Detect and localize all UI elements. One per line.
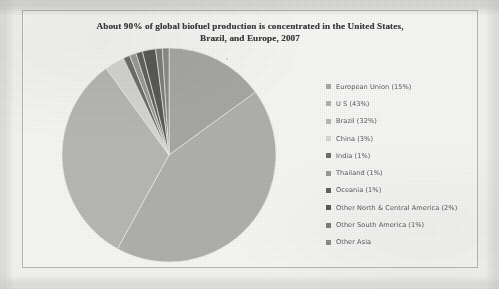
legend-item[interactable]: Thailand (1%): [326, 164, 496, 181]
legend-item[interactable]: Other South America (1%): [326, 216, 496, 233]
legend-swatch-icon: [326, 119, 331, 124]
scanned-page: About 90% of global biofuel production i…: [0, 0, 499, 289]
chart-title: About 90% of global biofuel production i…: [50, 20, 450, 44]
scan-speck: [226, 58, 228, 60]
legend-item[interactable]: Other North & Central America (2%): [326, 199, 496, 216]
legend-swatch-icon: [326, 171, 331, 176]
legend-swatch-icon: [326, 188, 331, 193]
legend-swatch-icon: [326, 223, 331, 228]
legend-swatch-icon: [326, 101, 331, 106]
pie-slices: [62, 48, 276, 262]
legend-item[interactable]: India (1%): [326, 147, 496, 164]
chart-title-line-2: Brazil, and Europe, 2007: [50, 32, 450, 44]
legend-item-label: China (3%): [336, 135, 373, 143]
legend-item[interactable]: China (3%): [326, 130, 496, 147]
legend-swatch-icon: [326, 205, 331, 210]
legend-item-label: Other Asia: [336, 238, 371, 246]
legend-item-label: Oceania (1%): [336, 186, 381, 194]
legend-swatch-icon: [326, 153, 331, 158]
legend-item-label: Thailand (1%): [336, 169, 383, 177]
legend-item[interactable]: Other Asia: [326, 234, 496, 251]
chart-title-line-1: About 90% of global biofuel production i…: [50, 20, 450, 32]
legend-item[interactable]: U S (43%): [326, 95, 496, 112]
legend-swatch-icon: [326, 136, 331, 141]
legend-swatch-icon: [326, 240, 331, 245]
legend-item[interactable]: Oceania (1%): [326, 182, 496, 199]
legend-item-label: Other North & Central America (2%): [336, 204, 457, 212]
legend-swatch-icon: [326, 84, 331, 89]
legend-item-label: Brazil (32%): [336, 117, 377, 125]
legend-item-label: India (1%): [336, 152, 370, 160]
chart-legend: European Union (15%) U S (43%) Brazil (3…: [326, 78, 496, 251]
legend-item-label: U S (43%): [336, 100, 369, 108]
legend-item-label: Other South America (1%): [336, 221, 424, 229]
legend-item[interactable]: Brazil (32%): [326, 113, 496, 130]
legend-item[interactable]: European Union (15%): [326, 78, 496, 95]
legend-item-label: European Union (15%): [336, 83, 411, 91]
